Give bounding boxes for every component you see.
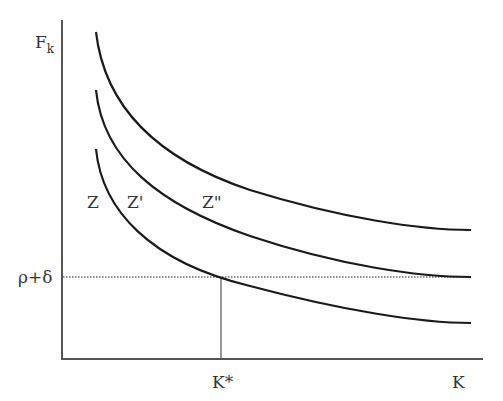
y-axis-label: Fk: [35, 32, 55, 56]
diagram-canvas: Fk K ρ+δ K* Z Z' Z": [0, 0, 503, 401]
rho-delta-label: ρ+δ: [18, 267, 52, 287]
x-axis-label: K: [452, 372, 465, 392]
k-star-label: K*: [212, 372, 234, 392]
curve-label-z: Z: [87, 192, 99, 212]
curve-z: [96, 149, 471, 323]
curve-z-prime: [96, 90, 471, 277]
curve-label-z-double-prime: Z": [202, 192, 222, 212]
curve-label-z-prime: Z': [127, 192, 144, 212]
curve-z-double-prime: [96, 32, 471, 230]
